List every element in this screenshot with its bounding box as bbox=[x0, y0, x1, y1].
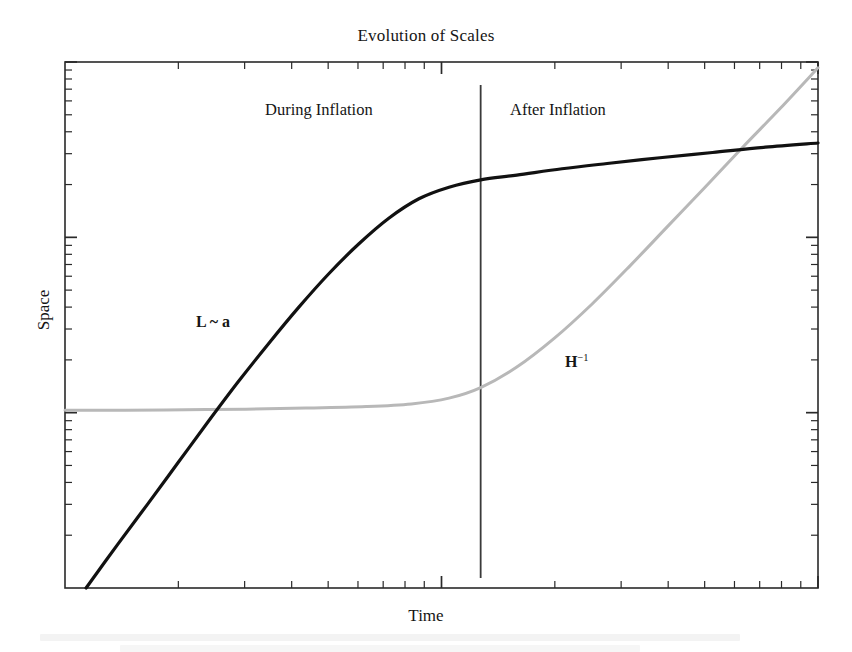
axis-ticks bbox=[65, 62, 818, 588]
scan-artifact bbox=[40, 634, 740, 641]
curve-hubble-radius bbox=[65, 68, 818, 410]
curve-physical-scale bbox=[86, 143, 818, 588]
scan-artifact bbox=[120, 645, 640, 652]
plot-frame bbox=[65, 62, 818, 588]
plot-area bbox=[0, 0, 852, 652]
figure-container: Evolution of Scales Space Time During In… bbox=[0, 0, 852, 652]
